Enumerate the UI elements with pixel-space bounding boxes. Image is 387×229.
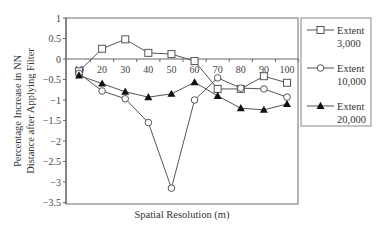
- x-tick-label: 20: [97, 64, 107, 75]
- circle-marker: [284, 94, 291, 101]
- circle-marker: [122, 95, 129, 102]
- circle-marker: [191, 97, 198, 104]
- legend: Extent3,000Extent10,000Extent20,000: [301, 18, 371, 126]
- triangle-marker: [237, 104, 245, 111]
- x-axis-label: Spatial Resolution (m): [134, 209, 230, 221]
- y-tick-label: 0.5: [49, 33, 62, 44]
- y-tick-label: −3: [50, 177, 61, 188]
- legend-label: Extent: [337, 101, 364, 112]
- y-tick-label: −2.5: [43, 156, 61, 167]
- circle-marker: [99, 88, 106, 95]
- square-marker: [168, 51, 175, 58]
- y-tick-label: 0: [56, 54, 61, 65]
- circle-marker: [145, 119, 152, 126]
- square-marker: [191, 58, 198, 65]
- square-marker: [284, 79, 291, 86]
- y-axis-label-line2: Distance after Applying Filter: [25, 48, 36, 174]
- line-chart: 10.50−0.5−1−1.5−2−2.5−3−3.5 102030405060…: [0, 0, 387, 229]
- square-marker: [214, 85, 221, 92]
- square-marker: [99, 45, 106, 52]
- y-tick-label: −3.5: [43, 197, 61, 208]
- circle-marker: [261, 86, 268, 93]
- legend-label: Extent: [337, 63, 364, 74]
- legend-label-value: 3,000: [337, 38, 361, 49]
- legend-label-value: 10,000: [337, 76, 366, 87]
- y-axis-label: Percentage Increase in NN Distance after…: [12, 48, 36, 174]
- square-marker: [317, 27, 324, 34]
- series-triangle: [75, 71, 291, 113]
- triangle-marker: [283, 100, 291, 107]
- circle-marker: [168, 185, 175, 192]
- y-tick-label: 1: [56, 13, 61, 24]
- circle-marker: [237, 85, 244, 92]
- x-tick-label: 100: [280, 64, 295, 75]
- y-tick-label: −1.5: [43, 115, 61, 126]
- x-tick-label: 30: [120, 64, 130, 75]
- triangle-marker: [191, 78, 199, 85]
- legend-label-value: 20,000: [337, 114, 366, 125]
- circle-marker: [317, 65, 324, 72]
- y-tick-label: −2: [50, 136, 61, 147]
- x-tick-label: 50: [166, 64, 176, 75]
- y-axis: 10.50−0.5−1−1.5−2−2.5−3−3.5: [43, 13, 66, 209]
- triangle-marker: [167, 90, 175, 97]
- y-tick-label: −0.5: [43, 74, 61, 85]
- legend-label: Extent: [337, 25, 364, 36]
- square-marker: [260, 73, 267, 80]
- square-marker: [122, 36, 129, 43]
- x-tick-label: 70: [213, 64, 223, 75]
- y-tick-label: −1: [50, 95, 61, 106]
- x-tick-label: 40: [143, 64, 153, 75]
- x-tick-label: 80: [236, 64, 246, 75]
- y-axis-label-line1: Percentage Increase in NN: [12, 54, 23, 167]
- circle-marker: [214, 75, 221, 82]
- square-marker: [145, 49, 152, 56]
